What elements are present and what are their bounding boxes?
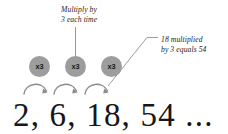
multiplier-circle-1: x3 <box>29 56 50 77</box>
sequence-diagram: Multiply by 3 each time 18 multiplied by… <box>0 0 228 134</box>
callout-18-multiplied: 18 multiplied by 3 equals 54 <box>161 35 206 54</box>
callout-right-line-2: by 3 equals 54 <box>161 45 206 55</box>
curved-arrow-3 <box>85 84 109 94</box>
multiplier-circle-2: x3 <box>65 56 86 77</box>
number-sequence: 2, 6, 18, 54 ... <box>13 97 214 133</box>
multiplier-label-1: x3 <box>35 63 43 70</box>
multiplier-label-3: x3 <box>107 63 115 70</box>
curved-arrow-1 <box>24 84 48 94</box>
callout-right-line-1: 18 multiplied <box>161 35 206 45</box>
curved-arrow-2 <box>54 84 78 94</box>
callout-top-line-2: 3 each time <box>61 15 97 25</box>
multiplier-circle-3: x3 <box>101 56 122 77</box>
multiplier-label-2: x3 <box>71 63 79 70</box>
callout-top-line-1: Multiply by <box>61 5 97 15</box>
callout-multiply-by-3: Multiply by 3 each time <box>61 5 97 24</box>
